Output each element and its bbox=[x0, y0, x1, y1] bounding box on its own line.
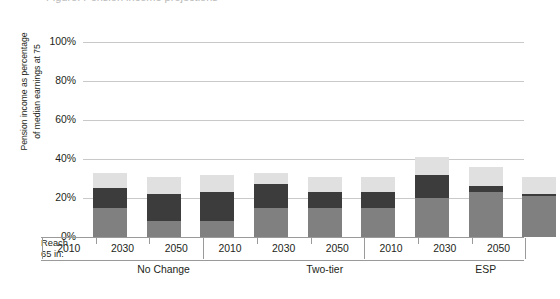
cut-off-title: Figure: Pension income projections bbox=[0, 0, 540, 12]
bar-segment-middle bbox=[147, 194, 181, 221]
bar-segment-top bbox=[415, 157, 449, 175]
bar-segment-top bbox=[308, 177, 342, 193]
plot-area: 0%20%40%60%80%100% bbox=[83, 42, 524, 237]
bar-segment-bottom bbox=[522, 196, 556, 237]
x-axis-minor-tick bbox=[149, 238, 150, 244]
x-tick-label-no-change-2030: 2030 bbox=[96, 238, 150, 259]
y-axis-title-line1: Pension income as percentage bbox=[18, 4, 31, 179]
bar-two-tier-2050 bbox=[361, 177, 395, 237]
x-axis-minor-tick bbox=[472, 238, 473, 244]
gridline-60 bbox=[83, 120, 524, 121]
bar-segment-bottom bbox=[93, 208, 127, 237]
group-label-no-change: No Change bbox=[83, 264, 244, 275]
x-tick-label-two-tier-2010: 2010 bbox=[203, 238, 257, 259]
cut-off-title-text: Figure: Pension income projections bbox=[46, 0, 218, 3]
bar-segment-top bbox=[93, 173, 127, 189]
bar-segment-top bbox=[254, 173, 288, 185]
bar-segment-bottom bbox=[469, 192, 503, 237]
bar-segment-bottom bbox=[361, 208, 395, 237]
x-axis-minor-tick bbox=[418, 238, 419, 244]
bar-segment-middle bbox=[93, 188, 127, 208]
y-axis-title-line2: of median earnings at 75 bbox=[31, 4, 44, 179]
x-tick-label-esp-2010: 2010 bbox=[364, 238, 418, 259]
bar-segment-bottom bbox=[308, 208, 342, 237]
bar-segment-middle bbox=[254, 184, 288, 207]
group-separator bbox=[42, 238, 43, 259]
group-label-two-tier: Two-tier bbox=[244, 264, 405, 275]
group-separator bbox=[525, 238, 526, 259]
bar-no-change-2050 bbox=[200, 175, 234, 237]
bar-segment-top bbox=[522, 177, 556, 195]
x-tick-label-two-tier-2030: 2030 bbox=[257, 238, 311, 259]
x-tick-label-esp-2030: 2030 bbox=[418, 238, 472, 259]
bar-segment-middle bbox=[415, 175, 449, 198]
y-tick-label-100: 100% bbox=[49, 37, 76, 47]
group-separator bbox=[203, 238, 204, 259]
x-axis-minor-tick bbox=[257, 238, 258, 244]
bar-two-tier-2030 bbox=[308, 177, 342, 237]
y-axis-title: Pension income as percentage of median e… bbox=[18, 4, 43, 179]
x-tick-label-no-change-2010: 2010 bbox=[42, 238, 96, 259]
bar-segment-top bbox=[147, 177, 181, 195]
bar-segment-middle bbox=[308, 192, 342, 208]
bar-segment-bottom bbox=[254, 208, 288, 237]
bar-no-change-2030 bbox=[147, 177, 181, 237]
x-axis: 201020302050201020302050201020302050 bbox=[41, 237, 524, 261]
x-tick-label-esp-2050: 2050 bbox=[472, 238, 526, 259]
bar-segment-bottom bbox=[415, 198, 449, 237]
bar-esp-2050 bbox=[522, 177, 556, 237]
bar-segment-top bbox=[361, 177, 395, 193]
x-axis-minor-tick bbox=[311, 238, 312, 244]
bar-segment-middle bbox=[361, 192, 395, 208]
bar-segment-middle bbox=[200, 192, 234, 221]
group-separator bbox=[364, 238, 365, 259]
y-tick-label-80: 80% bbox=[55, 76, 76, 86]
bar-two-tier-2010 bbox=[254, 173, 288, 237]
gridline-40 bbox=[83, 159, 524, 160]
x-tick-label-two-tier-2050: 2050 bbox=[311, 238, 365, 259]
bar-segment-top bbox=[200, 175, 234, 193]
y-tick-label-40: 40% bbox=[55, 154, 76, 164]
x-axis-minor-tick bbox=[96, 238, 97, 244]
group-label-esp: ESP bbox=[405, 264, 560, 275]
x-tick-label-no-change-2050: 2050 bbox=[149, 238, 203, 259]
bar-esp-2030 bbox=[469, 167, 503, 237]
y-tick-label-60: 60% bbox=[55, 115, 76, 125]
y-tick-label-20: 20% bbox=[55, 193, 76, 203]
gridline-80 bbox=[83, 81, 524, 82]
gridline-100 bbox=[83, 42, 524, 43]
bar-segment-bottom bbox=[147, 221, 181, 237]
bar-no-change-2010 bbox=[93, 173, 127, 237]
bar-esp-2010 bbox=[415, 157, 449, 237]
bar-segment-top bbox=[469, 167, 503, 187]
bar-segment-bottom bbox=[200, 221, 234, 237]
